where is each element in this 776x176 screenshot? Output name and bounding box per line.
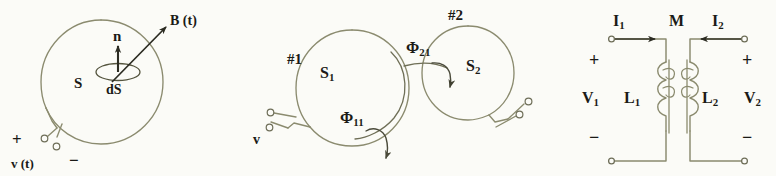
electromagnetics-figure: B (t) n dS S + v (t) − #1 #2 S1 S2 Φ11 Φ… bbox=[0, 0, 776, 176]
loop2-terminal-top bbox=[525, 98, 532, 105]
label-source-voltage: v (t) bbox=[11, 157, 34, 170]
circuit-terminal-top-right bbox=[742, 36, 748, 42]
label-loop1-number: #1 bbox=[287, 52, 302, 67]
label-mutual-inductance: M bbox=[669, 13, 684, 29]
circuit-terminal-top-left bbox=[609, 36, 615, 42]
label-inductor-l1: L1 bbox=[624, 90, 640, 108]
label-flux-self: Φ11 bbox=[340, 110, 364, 128]
loop1-terminal-bottom bbox=[266, 124, 273, 131]
label-loop1-source: v bbox=[253, 133, 260, 147]
inductor-right-coil bbox=[690, 62, 698, 131]
label-voltage-v2: V2 bbox=[744, 90, 761, 108]
circuit-terminal-bottom-left bbox=[609, 158, 615, 164]
loop-surface-circle bbox=[41, 20, 163, 144]
label-polarity-minus: − bbox=[69, 152, 79, 169]
label-current-i2: I2 bbox=[712, 13, 724, 31]
label-minus-left: − bbox=[589, 128, 599, 146]
label-surface-s2: S2 bbox=[466, 58, 481, 76]
label-plus-right: + bbox=[742, 51, 752, 69]
label-inductor-l2: L2 bbox=[702, 90, 718, 108]
loop1-terminal-top bbox=[267, 109, 274, 116]
loop2-terminal-bottom bbox=[516, 111, 523, 118]
loop1-lead-wires bbox=[271, 113, 310, 128]
label-area-element: dS bbox=[106, 83, 122, 97]
terminal-negative bbox=[53, 143, 60, 150]
label-loop2-number: #2 bbox=[448, 8, 463, 23]
label-polarity-plus: + bbox=[12, 131, 22, 148]
label-flux-mutual: Φ21 bbox=[406, 40, 431, 58]
loop1-circle bbox=[296, 30, 409, 146]
label-plus-left: + bbox=[589, 51, 599, 69]
label-surface-s: S bbox=[74, 76, 82, 91]
label-minus-right: − bbox=[742, 128, 752, 146]
label-voltage-v1: V1 bbox=[582, 90, 599, 108]
label-current-i1: I1 bbox=[613, 13, 625, 31]
label-surface-s1: S1 bbox=[320, 65, 335, 83]
label-normal-vector: n bbox=[113, 29, 121, 44]
coil-inner-curls bbox=[663, 68, 693, 97]
inductor-left-coil bbox=[658, 62, 666, 131]
circuit-terminal-bottom-right bbox=[742, 158, 748, 164]
label-b-field: B (t) bbox=[170, 14, 197, 28]
terminal-positive bbox=[41, 135, 48, 142]
